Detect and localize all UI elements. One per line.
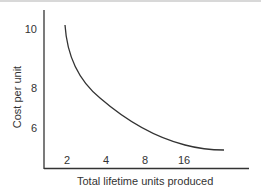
x-tick-2: 2 [64, 154, 70, 166]
x-tick-8: 8 [142, 154, 148, 166]
y-tick-6: 6 [17, 122, 37, 134]
x-axis-label: Total lifetime units produced [77, 175, 213, 187]
y-axis-label: Cost per unit [11, 66, 23, 128]
chart-plot-area [0, 0, 261, 194]
cost-curve [65, 25, 224, 150]
x-tick-4: 4 [103, 154, 109, 166]
x-tick-16: 16 [178, 154, 190, 166]
y-tick-10: 10 [17, 23, 37, 35]
y-tick-8: 8 [17, 82, 37, 94]
